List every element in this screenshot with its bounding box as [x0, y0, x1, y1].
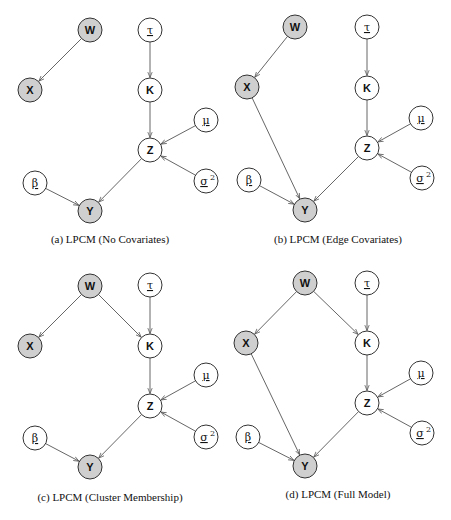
node-beta: β	[236, 425, 260, 449]
edge-W-to-X	[39, 294, 82, 337]
panel-d-full-model: WXτKμZσ2βY(d) LPCM (Full Model)	[234, 271, 434, 501]
edge-sigma2-to-Z	[161, 156, 196, 175]
graphical-models-figure: WXτKμZσ2βY(a) LPCM (No Covariates) WXτKμ…	[0, 0, 451, 520]
node-label-tau: τ	[364, 277, 370, 290]
node-label-Z: Z	[364, 142, 371, 154]
node-W: W	[283, 15, 307, 39]
edge-sigma2-to-Z	[378, 154, 411, 172]
node-label-beta: β	[32, 177, 38, 190]
edge-mu-to-Z	[161, 126, 195, 144]
node-Y: Y	[78, 199, 102, 223]
node-tau: τ	[355, 271, 379, 295]
edge-beta-to-Y	[260, 186, 294, 204]
node-Z: Z	[355, 136, 379, 160]
node-X: X	[18, 78, 42, 102]
node-label-tau: τ	[147, 279, 153, 292]
node-label-X: X	[26, 340, 34, 352]
node-label-K: K	[363, 337, 371, 349]
node-K: K	[138, 334, 162, 358]
node-label-Y: Y	[301, 460, 309, 472]
node-K: K	[355, 76, 379, 100]
node-label-mu: μ	[202, 114, 209, 127]
edge-mu-to-Z	[378, 124, 411, 142]
node-X: X	[235, 75, 259, 99]
node-mu: μ	[409, 106, 433, 130]
node-label-tau: τ	[147, 24, 153, 37]
edge-Z-to-Y	[314, 156, 359, 201]
edge-beta-to-Y	[46, 444, 79, 462]
caption-panel-b: (b) LPCM (Edge Covariates)	[274, 233, 402, 246]
node-label-X: X	[242, 337, 250, 349]
node-Z: Z	[355, 391, 379, 415]
node-Z: Z	[138, 138, 162, 162]
node-label-W: W	[290, 21, 301, 33]
node-label-X: X	[26, 84, 34, 96]
edge-Z-to-Y	[99, 415, 142, 459]
node-sigma2: σ2	[410, 421, 434, 445]
edge-sigma2-to-Z	[378, 409, 411, 427]
node-K: K	[355, 331, 379, 355]
panel-c-cluster-membership: WXτKμZσ2βY(c) LPCM (Cluster Membership)	[18, 273, 218, 504]
caption-panel-d: (d) LPCM (Full Model)	[286, 488, 391, 501]
edge-W-to-K	[314, 291, 358, 334]
node-sigma2: σ2	[194, 425, 218, 449]
node-tau: τ	[355, 15, 379, 39]
edge-W-to-X	[255, 36, 288, 77]
node-mu: μ	[409, 361, 433, 385]
edge-Z-to-Y	[314, 412, 359, 458]
node-tau: τ	[138, 273, 162, 297]
node-label-Y: Y	[86, 461, 94, 473]
node-label-sigma2: σ	[416, 427, 424, 440]
caption-panel-c: (c) LPCM (Cluster Membership)	[37, 491, 182, 504]
node-label-sigma2: σ	[200, 175, 208, 188]
edge-mu-to-Z	[378, 379, 411, 397]
node-label-W: W	[85, 280, 96, 292]
node-label-beta: β	[246, 174, 252, 187]
node-sigma2: σ2	[410, 166, 434, 190]
node-X: X	[234, 331, 258, 355]
edge-W-to-X	[39, 38, 82, 81]
node-W: W	[78, 274, 102, 298]
node-W: W	[78, 18, 102, 42]
node-label-Z: Z	[147, 144, 154, 156]
node-mu: μ	[194, 363, 218, 387]
edge-W-to-X	[255, 292, 297, 335]
node-label-W: W	[300, 277, 311, 289]
node-label-K: K	[146, 340, 154, 352]
node-superscript-sigma2: 2	[210, 173, 215, 182]
node-beta: β	[23, 426, 47, 450]
node-label-sigma2: σ	[200, 431, 208, 444]
node-Z: Z	[138, 394, 162, 418]
edge-Z-to-Y	[99, 159, 142, 203]
node-label-Z: Z	[364, 397, 371, 409]
node-X: X	[18, 334, 42, 358]
node-label-sigma2: σ	[416, 172, 424, 185]
node-K: K	[138, 78, 162, 102]
node-label-beta: β	[32, 432, 38, 445]
edge-W-to-K	[98, 294, 141, 337]
node-sigma2: σ2	[194, 169, 218, 193]
edge-beta-to-Y	[46, 188, 79, 205]
node-label-Z: Z	[147, 400, 154, 412]
node-Y: Y	[293, 198, 317, 222]
node-superscript-sigma2: 2	[426, 425, 431, 434]
edge-mu-to-Z	[161, 381, 196, 400]
node-Y: Y	[78, 455, 102, 479]
edge-beta-to-Y	[259, 442, 294, 460]
panel-b-edge-covariates: WXτKμZσ2βY(b) LPCM (Edge Covariates)	[235, 15, 434, 246]
node-mu: μ	[194, 108, 218, 132]
caption-panel-a: (a) LPCM (No Covariates)	[51, 233, 170, 246]
node-beta: β	[237, 168, 261, 192]
node-label-W: W	[85, 24, 96, 36]
node-label-K: K	[146, 84, 154, 96]
node-label-beta: β	[245, 431, 251, 444]
node-label-tau: τ	[364, 21, 370, 34]
node-label-K: K	[363, 82, 371, 94]
edge-sigma2-to-Z	[161, 412, 196, 431]
node-label-mu: μ	[417, 367, 424, 380]
node-Y: Y	[293, 454, 317, 478]
node-label-Y: Y	[301, 204, 309, 216]
panel-a-no-covariates: WXτKμZσ2βY(a) LPCM (No Covariates)	[18, 18, 218, 246]
node-label-mu: μ	[417, 112, 424, 125]
node-superscript-sigma2: 2	[210, 429, 215, 438]
